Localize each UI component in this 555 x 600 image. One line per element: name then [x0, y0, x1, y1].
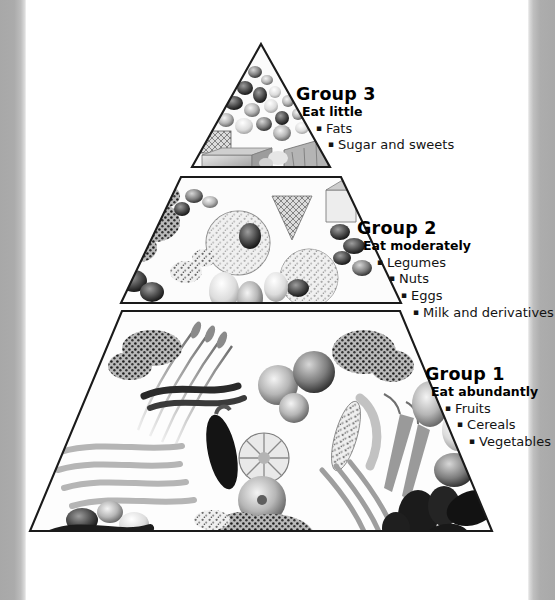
bullet-square-icon: ▪ [445, 403, 451, 413]
bullet-square-icon: ▪ [389, 273, 395, 283]
group-3-title: Group 3 [296, 85, 454, 103]
bullet-square-icon: ▪ [316, 123, 322, 133]
group-1-item-list: ▪Fruits ▪Cereals ▪Vegetables [425, 401, 551, 452]
list-item: ▪Fats [296, 121, 454, 138]
list-item: ▪Milk and derivatives [357, 305, 554, 322]
group-1-title: Group 1 [425, 365, 551, 383]
group-2-title: Group 2 [357, 219, 554, 237]
group-1-item-label: Fruits [455, 401, 491, 416]
group-1-advice: Eat abundantly [425, 385, 551, 398]
group-2-item-label: Eggs [411, 288, 443, 303]
page-edge-band-left [0, 0, 26, 600]
group-2-advice: Eat moderately [357, 239, 554, 252]
pyramid-page: Group 3 Eat little ▪Fats ▪Sugar and swee… [0, 0, 555, 600]
group-1-item-label: Vegetables [479, 434, 551, 449]
callout-group-2: Group 2 Eat moderately ▪Legumes ▪Nuts ▪E… [357, 219, 554, 322]
list-item: ▪Sugar and sweets [296, 137, 454, 154]
callout-group-1: Group 1 Eat abundantly ▪Fruits ▪Cereals … [425, 365, 551, 451]
bullet-square-icon: ▪ [469, 436, 475, 446]
group-3-item-label: Sugar and sweets [338, 137, 454, 152]
group-2-item-label: Nuts [399, 271, 429, 286]
group-3-item-label: Fats [326, 121, 352, 136]
bullet-square-icon: ▪ [457, 419, 463, 429]
bullet-square-icon: ▪ [413, 307, 419, 317]
bullet-square-icon: ▪ [328, 139, 334, 149]
list-item: ▪Eggs [357, 288, 554, 305]
list-item: ▪Cereals [425, 417, 551, 434]
list-item: ▪Fruits [425, 401, 551, 418]
bullet-square-icon: ▪ [377, 257, 383, 267]
bullet-square-icon: ▪ [401, 290, 407, 300]
list-item: ▪Legumes [357, 255, 554, 272]
group-1-item-label: Cereals [467, 417, 515, 432]
group-2-item-label: Milk and derivatives [423, 305, 554, 320]
callout-group-3: Group 3 Eat little ▪Fats ▪Sugar and swee… [296, 85, 454, 154]
list-item: ▪Vegetables [425, 434, 551, 451]
group-2-item-list: ▪Legumes ▪Nuts ▪Eggs ▪Milk and derivativ… [357, 255, 554, 323]
group-2-item-label: Legumes [387, 255, 446, 270]
group-3-advice: Eat little [296, 105, 454, 118]
list-item: ▪Nuts [357, 271, 554, 288]
food-pyramid-figure: Group 3 Eat little ▪Fats ▪Sugar and swee… [26, 0, 528, 600]
group-3-item-list: ▪Fats ▪Sugar and sweets [296, 121, 454, 155]
